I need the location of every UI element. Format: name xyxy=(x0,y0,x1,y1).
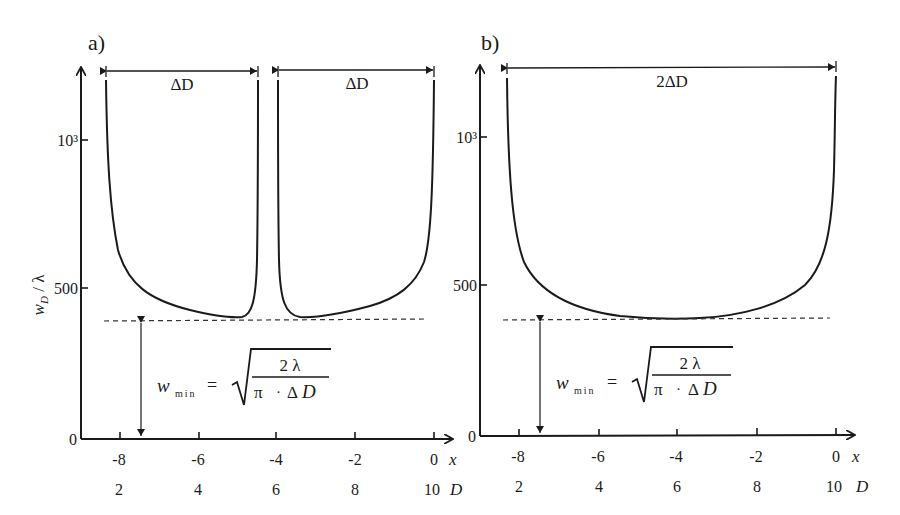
dimension-label: 2ΔD xyxy=(656,72,688,91)
x-axis-label-x: x xyxy=(448,450,457,469)
svg-text:π: π xyxy=(654,380,663,399)
svg-text:2 λ: 2 λ xyxy=(280,356,302,375)
D-tick: 4 xyxy=(194,481,202,498)
D-tick: 2 xyxy=(115,481,123,498)
svg-text:Δ: Δ xyxy=(688,380,699,399)
x-axis-label-x: x xyxy=(851,447,860,466)
panel-b-label: b) xyxy=(481,30,499,55)
svg-text:=: = xyxy=(207,375,217,395)
x-tick: -2 xyxy=(749,448,762,465)
dimension-label-1: ΔD xyxy=(170,75,193,94)
svg-text:·: · xyxy=(276,384,281,400)
x-tick: -6 xyxy=(191,451,204,468)
D-tick: 4 xyxy=(595,478,603,495)
y-tick-500: 500 xyxy=(54,280,78,297)
wmin-dashed-line xyxy=(104,319,428,321)
x-tick: 0 xyxy=(832,448,840,465)
y-tick-0: 0 xyxy=(468,428,476,445)
D-tick: 8 xyxy=(753,478,761,495)
wmin-formula: w min = 2 λ π · Δ D xyxy=(556,347,733,402)
svg-text:·: · xyxy=(676,381,681,397)
x-tick: -4 xyxy=(669,448,682,465)
D-tick: 10 xyxy=(424,481,440,498)
svg-text:min: min xyxy=(175,388,197,399)
x-tick: -2 xyxy=(348,451,361,468)
figure: a) 0 500 10³ wD / λ -8 -6 -4 -2 xyxy=(0,0,900,515)
y-tick-1000: 10³ xyxy=(456,129,477,146)
svg-text:min: min xyxy=(574,385,596,396)
D-tick: 2 xyxy=(515,478,523,495)
D-tick: 10 xyxy=(826,478,842,495)
dimension-label-2: ΔD xyxy=(345,74,368,93)
panel-a: a) 0 500 10³ wD / λ -8 -6 -4 -2 xyxy=(29,30,463,499)
panel-a-label: a) xyxy=(88,30,105,55)
svg-text:2 λ: 2 λ xyxy=(680,354,702,373)
panel-b: b) 0 500 10³ -8 -6 -4 -2 0 2 4 6 8 10 x … xyxy=(453,30,869,496)
svg-text:π: π xyxy=(254,383,263,402)
x-tick: 0 xyxy=(430,451,438,468)
x-axis-label-D: D xyxy=(449,480,463,499)
curve-segment-1 xyxy=(106,80,258,317)
x-tick: -6 xyxy=(591,448,604,465)
svg-text:w: w xyxy=(556,372,569,393)
svg-text:wD / λ: wD / λ xyxy=(29,274,50,316)
svg-text:w: w xyxy=(157,375,170,396)
svg-text:=: = xyxy=(607,372,617,392)
svg-text:Δ: Δ xyxy=(287,383,298,402)
x-axis xyxy=(480,435,854,436)
curve-segment xyxy=(507,76,836,319)
y-tick-1000: 10³ xyxy=(57,132,78,149)
svg-text:D: D xyxy=(301,381,316,402)
D-tick: 8 xyxy=(351,481,359,498)
x-tick: -4 xyxy=(269,451,282,468)
D-tick: 6 xyxy=(673,478,681,495)
wmin-formula: w min = 2 λ π · Δ D xyxy=(157,349,331,405)
y-tick-0: 0 xyxy=(69,431,77,448)
y-tick-500: 500 xyxy=(453,277,477,294)
x-axis-label-D: D xyxy=(855,477,869,496)
x-tick: -8 xyxy=(112,451,125,468)
curve-segment-2 xyxy=(278,80,434,317)
x-tick: -8 xyxy=(511,448,524,465)
svg-text:D: D xyxy=(702,378,717,399)
D-tick: 6 xyxy=(272,481,280,498)
y-axis-label: wD / λ xyxy=(29,274,50,316)
